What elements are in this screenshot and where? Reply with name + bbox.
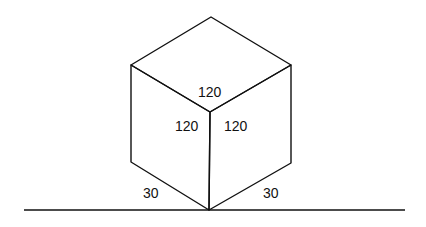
isometric-cube-diagram: 120 120 120 30 30	[0, 0, 426, 227]
left-base-angle-label: 30	[143, 185, 159, 201]
right-base-angle-label: 30	[263, 185, 279, 201]
right-face-angle-label: 120	[224, 118, 248, 134]
top-face-angle-label: 120	[198, 84, 222, 100]
left-face-angle-label: 120	[175, 118, 199, 134]
